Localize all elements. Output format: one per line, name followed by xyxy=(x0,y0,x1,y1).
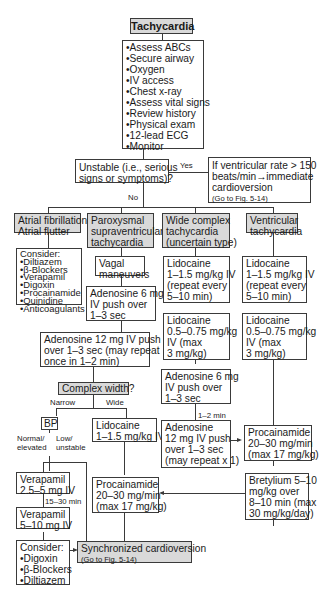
box-line: over 1–3 sec xyxy=(165,444,227,455)
box-line: tachycardia xyxy=(91,237,150,248)
connector xyxy=(43,462,44,472)
wide-label: Wide xyxy=(106,398,124,407)
connector xyxy=(93,367,94,382)
label-line: unstable xyxy=(56,443,85,452)
box-line: 1–1.5 mg/kg IV xyxy=(167,269,226,280)
box-line: IV (max xyxy=(167,337,226,348)
box-line: cardioversion xyxy=(212,182,307,193)
figure-reference: (Go to Fig. 5-14) xyxy=(212,193,307,204)
cardioversion-label: Synchronized cardioversion xyxy=(81,543,188,554)
box-line: Bretylium 5–10 xyxy=(249,475,305,486)
connector xyxy=(93,394,94,408)
assessment-item: •Secure airway xyxy=(126,53,200,64)
psvt-consider-box: Consider: •Digoxin •β-Blockers •Diltiaze… xyxy=(16,540,70,585)
low-unstable-label: Low/ unstable xyxy=(56,434,85,452)
box-line: over 1–3 sec (may repeat xyxy=(44,345,146,356)
psvt-procainamide-box: Procainamide 20–30 mg/min (max 17 mg/kg) xyxy=(92,477,159,513)
box-line: 5–10 mg IV xyxy=(20,520,66,531)
box-line: Vagal xyxy=(99,258,141,269)
title: Tachycardia xyxy=(131,20,194,32)
atrial-fibrillation-box: Atrial fibrillation Atrial flutter xyxy=(14,213,81,233)
yes-label: Yes xyxy=(180,161,193,170)
assessment-item: •Assess vital signs xyxy=(126,97,200,108)
box-line: IV push over xyxy=(90,299,152,310)
consider-title: Consider: xyxy=(20,542,66,553)
box-line: Atrial fibrillation xyxy=(18,215,77,226)
connector xyxy=(124,512,125,541)
box-line: IV (max xyxy=(246,337,303,348)
connector xyxy=(273,350,274,425)
wide-lidocaine-1-box: Lidocaine 1–1.5 mg/kg IV (repeat every 5… xyxy=(163,256,230,303)
connector xyxy=(126,408,127,418)
psvt-adenosine-6-box: Adenosine 6 mg IV push over 1–3 sec xyxy=(86,286,156,321)
title-box: Tachycardia xyxy=(130,18,193,34)
box-line: supraventricular xyxy=(91,226,150,237)
box-line: 20–30 mg/min xyxy=(248,438,308,449)
box-line: 1–3 sec xyxy=(90,310,152,321)
box-line: Adenosine 6 mg xyxy=(90,288,152,299)
assessment-item: •Oxygen xyxy=(126,64,200,75)
box-line: (uncertain type) xyxy=(166,237,226,248)
box-line: Atrial flutter xyxy=(18,226,77,237)
box-line: tachycardia xyxy=(166,226,226,237)
assessment-item: •Assess ABCs xyxy=(126,42,200,53)
box-line: If ventricular rate > 150 xyxy=(212,160,307,171)
box-line: IV push over xyxy=(165,382,227,393)
question-line: Unstable (i.e., serious xyxy=(79,162,165,173)
box-line: 0.5–0.75 mg/kg xyxy=(246,326,303,337)
box-line: 8–10 min (max xyxy=(249,497,305,508)
box-line: mg/kg over xyxy=(249,486,305,497)
wide-adenosine-12-box: Adenosine 12 mg IV push over 1–3 sec (ma… xyxy=(161,420,231,468)
figure-reference: (Go to Fig. 5-14) xyxy=(81,554,188,565)
box-line: 12 mg IV push xyxy=(165,433,227,444)
connector xyxy=(56,408,126,409)
connector xyxy=(56,408,57,416)
box-line: Adenosine 12 mg IV push xyxy=(44,334,146,345)
interval-label: 15–30 min xyxy=(45,497,81,506)
consider-item: •β-Blockers xyxy=(20,564,66,575)
box-line: Verapamil xyxy=(20,474,66,485)
connector-branch xyxy=(48,207,273,208)
interval-label: 1–2 min xyxy=(198,411,226,420)
label-line: Normal/ xyxy=(17,434,46,443)
box-line: Lidocaine xyxy=(167,258,226,269)
normal-elevated-label: Normal/ elevated xyxy=(17,434,46,452)
box-line: (repeat every xyxy=(246,280,303,291)
box-line: 3 mg/kg) xyxy=(246,348,303,359)
assessment-item: •Monitor xyxy=(126,141,200,152)
box-line: 1–1.5 mg/kg IV xyxy=(96,431,153,442)
bretylium-box: Bretylium 5–10 mg/kg over 8–10 min (max … xyxy=(245,473,309,520)
box-line: Adenosine 6 mg xyxy=(165,371,227,382)
af-consider-box: Consider: •Diltiazem •β-Blockers •Verapa… xyxy=(16,248,82,305)
verapamil-5-10-box: Verapamil 5–10 mg IV xyxy=(16,507,70,529)
assessment-box: •Assess ABCs •Secure airway •Oxygen •IV … xyxy=(122,40,204,149)
no-label: No xyxy=(128,193,138,202)
synchronized-cardioversion-box[interactable]: Synchronized cardioversion (Go to Fig. 5… xyxy=(77,541,192,563)
box-line: BP xyxy=(44,418,58,429)
connector xyxy=(273,519,274,526)
complex-width-box: Complex width? xyxy=(58,382,129,395)
box-line: 0.5–0.75 mg/kg xyxy=(167,326,226,337)
box-line: beats/min→immediate xyxy=(212,171,307,182)
label-line: Low/ xyxy=(56,434,85,443)
box-line: 3 mg/kg) xyxy=(167,348,226,359)
box-line: Paroxysmal xyxy=(91,215,150,226)
consider-item: •Diltiazem xyxy=(20,575,66,586)
wide-adenosine-6-box: Adenosine 6 mg IV push over 1–3 sec xyxy=(161,369,231,404)
box-line: Complex width? xyxy=(62,383,134,394)
box-line: 20–30 mg/min xyxy=(96,490,155,501)
box-line: once in 1–2 min) xyxy=(44,356,146,367)
unstable-question-box: Unstable (i.e., serious signs or symptom… xyxy=(75,159,169,183)
box-line: (may repeat x 1) xyxy=(165,455,227,466)
connector xyxy=(43,532,44,540)
connector xyxy=(121,320,122,332)
psvt-lidocaine-box: Lidocaine 1–1.5 mg/kg IV xyxy=(92,418,157,442)
vagal-maneuvers-box: Vagal maneuvers xyxy=(95,256,145,276)
box-line: Lidocaine xyxy=(96,420,153,431)
arrow-icon xyxy=(237,438,242,442)
bp-box: BP xyxy=(41,417,58,430)
box-line: (max 17 mg/kg) xyxy=(96,501,155,512)
immediate-cardioversion-box: If ventricular rate > 150 beats/min→imme… xyxy=(208,157,311,203)
vt-lidocaine-2-box: Lidocaine 0.5–0.75 mg/kg IV (max 3 mg/kg… xyxy=(242,313,307,360)
connector xyxy=(43,462,87,463)
